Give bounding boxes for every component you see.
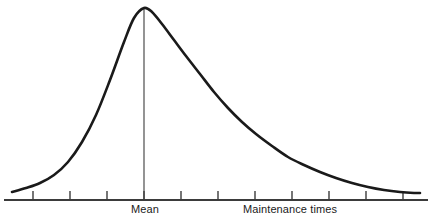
density-curve xyxy=(12,8,420,193)
distribution-chart: Mean Maintenance times xyxy=(0,0,432,222)
x-axis-label: Maintenance times xyxy=(243,203,337,215)
x-axis-ticks xyxy=(33,191,403,200)
axis-group xyxy=(4,191,428,200)
chart-canvas xyxy=(0,0,432,222)
